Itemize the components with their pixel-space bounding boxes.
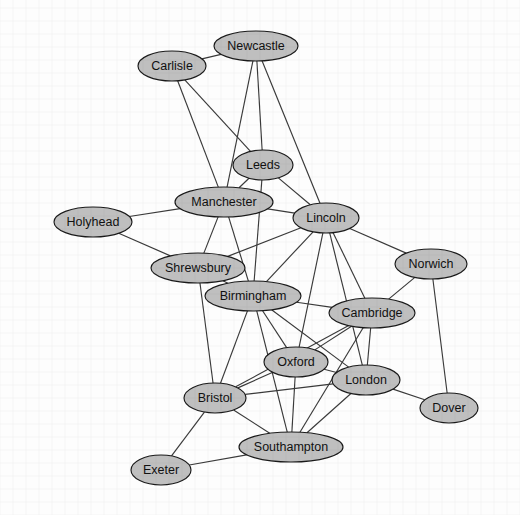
graph-edge-lincoln-oxford [299, 233, 323, 347]
graph-node-norwich[interactable]: Norwich [395, 249, 467, 279]
graph-node-exeter[interactable]: Exeter [131, 455, 191, 485]
graph-edge-bristol-exeter [172, 412, 205, 456]
graph-edge-oxford-london [324, 369, 337, 372]
graph-edge-norwich-dover [433, 279, 447, 393]
graph-edge-cambridge-oxford [315, 326, 352, 350]
graph-edge-cambridge-london [367, 328, 370, 365]
graph-edge-carlisle-manchester [178, 81, 219, 187]
node-ellipse-cambridge[interactable] [329, 298, 415, 328]
graph-node-london[interactable]: London [332, 365, 400, 395]
node-ellipse-norwich[interactable] [395, 249, 467, 279]
node-ellipse-bristol[interactable] [184, 383, 246, 413]
node-ellipse-oxford[interactable] [264, 347, 328, 377]
graph-node-oxford[interactable]: Oxford [264, 347, 328, 377]
graph-edge-leeds-manchester [239, 178, 249, 187]
graph-node-lincoln[interactable]: Lincoln [293, 203, 359, 233]
graph-edge-carlisle-leeds [185, 80, 251, 151]
graph-node-manchester[interactable]: Manchester [175, 187, 273, 217]
graph-edge-birmingham-cambridge [297, 302, 333, 307]
graph-edge-holyhead-shrewsbury [119, 233, 171, 256]
graph-edge-oxford-southampton [292, 377, 295, 432]
graph-node-birmingham[interactable]: Birmingham [205, 281, 301, 311]
node-ellipse-dover[interactable] [420, 393, 478, 423]
graph-edge-london-dover [393, 389, 425, 400]
graph-edge-oxford-bristol [238, 372, 273, 388]
node-ellipse-birmingham[interactable] [205, 281, 301, 311]
graph-node-leeds[interactable]: Leeds [233, 150, 293, 180]
graph-edge-lincoln-birmingham [266, 232, 313, 282]
graph-node-southampton[interactable]: Southampton [239, 432, 343, 462]
graph-node-bristol[interactable]: Bristol [184, 383, 246, 413]
graph-node-cambridge[interactable]: Cambridge [329, 298, 415, 328]
graph-edge-southampton-exeter [189, 455, 246, 465]
graph-edge-manchester-lincoln [268, 209, 295, 213]
graph-edge-birmingham-oxford [263, 311, 287, 348]
node-ellipse-lincoln[interactable] [293, 203, 359, 233]
graph-edge-newcastle-lincoln [262, 61, 320, 203]
graph-node-shrewsbury[interactable]: Shrewsbury [151, 253, 245, 283]
node-ellipse-manchester[interactable] [175, 187, 273, 217]
graph-node-newcastle[interactable]: Newcastle [214, 31, 298, 61]
graph-edge-shrewsbury-lincoln [228, 228, 301, 257]
graph-edge-carlisle-newcastle [202, 54, 221, 59]
graph-edge-london-southampton [307, 393, 351, 432]
node-layer: CarlisleNewcastleLeedsManchesterLincolnH… [54, 31, 478, 485]
graph-canvas: CarlisleNewcastleLeedsManchesterLincolnH… [0, 0, 520, 515]
node-ellipse-newcastle[interactable] [214, 31, 298, 61]
node-ellipse-exeter[interactable] [131, 455, 191, 485]
graph-edge-manchester-holyhead [129, 209, 180, 217]
graph-edge-lincoln-norwich [350, 228, 406, 253]
graph-edge-manchester-shrewsbury [204, 217, 218, 253]
graph-edge-norwich-cambridge [389, 277, 415, 299]
graph-edge-london-bristol [245, 384, 333, 395]
node-ellipse-southampton[interactable] [239, 432, 343, 462]
node-ellipse-holyhead[interactable] [54, 207, 132, 237]
graph-node-holyhead[interactable]: Holyhead [54, 207, 132, 237]
graph-edge-birmingham-bristol [221, 311, 248, 383]
graph-edge-bristol-southampton [234, 410, 270, 433]
graph-node-dover[interactable]: Dover [420, 393, 478, 423]
graph-node-carlisle[interactable]: Carlisle [138, 51, 206, 81]
node-ellipse-leeds[interactable] [233, 150, 293, 180]
network-graph: CarlisleNewcastleLeedsManchesterLincolnH… [0, 0, 520, 515]
node-ellipse-carlisle[interactable] [138, 51, 206, 81]
node-ellipse-shrewsbury[interactable] [151, 253, 245, 283]
graph-edge-leeds-lincoln [278, 178, 310, 205]
graph-edge-newcastle-leeds [257, 61, 262, 150]
node-ellipse-london[interactable] [332, 365, 400, 395]
